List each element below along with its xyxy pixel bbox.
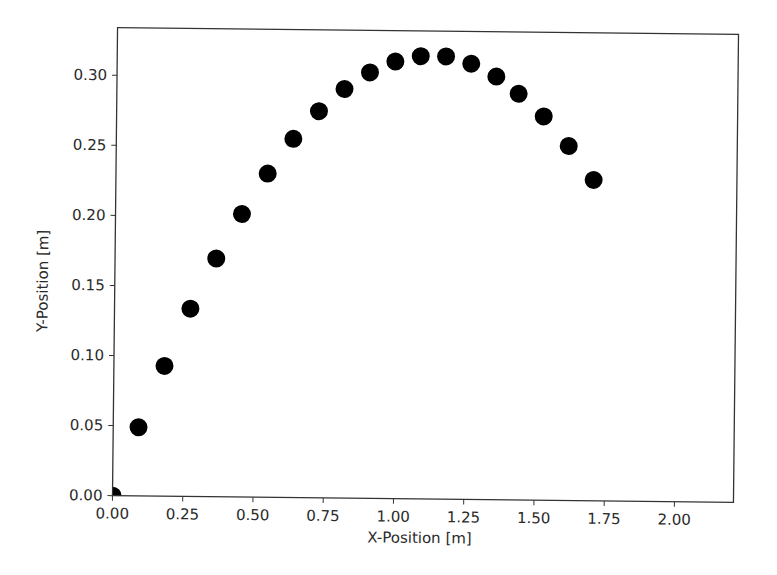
y-axis-label: Y-Position [m] [33,230,52,333]
x-tick-label: 1.50 [517,509,551,527]
y-tick-label: 0.15 [71,276,105,294]
data-point [335,80,353,98]
data-point [284,130,302,148]
axes-frame [112,28,738,503]
x-tick-label: 0.00 [95,504,129,522]
data-point [535,107,553,125]
data-point [462,55,480,73]
y-tick-label: 0.30 [74,66,108,84]
scatter-figure: 0.000.250.500.751.001.251.501.752.00 0.0… [0,0,777,575]
data-point [560,137,578,155]
data-point [361,63,379,81]
y-tick-label: 0.00 [69,486,103,504]
y-tick-label: 0.05 [70,416,104,434]
data-point [310,102,328,120]
x-tick-label: 0.50 [236,506,270,524]
x-tick-label: 1.75 [587,510,621,528]
y-tick-label: 0.25 [73,136,107,154]
x-tick-label: 1.25 [447,508,481,526]
data-point [386,52,404,70]
data-point [129,418,147,436]
data-point [510,85,528,103]
y-axis-ticks: 0.000.050.100.150.200.250.30 [69,66,117,505]
data-point [437,47,455,65]
y-tick-label: 0.10 [71,346,105,364]
data-point [259,164,277,182]
data-point [181,300,199,318]
data-point [233,205,251,223]
chart-canvas: 0.000.250.500.751.001.251.501.752.00 0.0… [0,0,777,575]
data-points [103,44,604,510]
x-tick-label: 0.75 [306,507,340,525]
data-point [207,249,225,267]
data-point [585,171,603,189]
data-point [487,67,505,85]
x-tick-label: 2.00 [657,511,691,529]
data-point [155,357,173,375]
x-tick-label: 0.25 [166,505,200,523]
data-point [412,47,430,65]
y-tick-label: 0.20 [72,206,106,224]
x-axis-label: X-Position [m] [367,528,472,547]
x-tick-label: 1.00 [376,507,410,525]
